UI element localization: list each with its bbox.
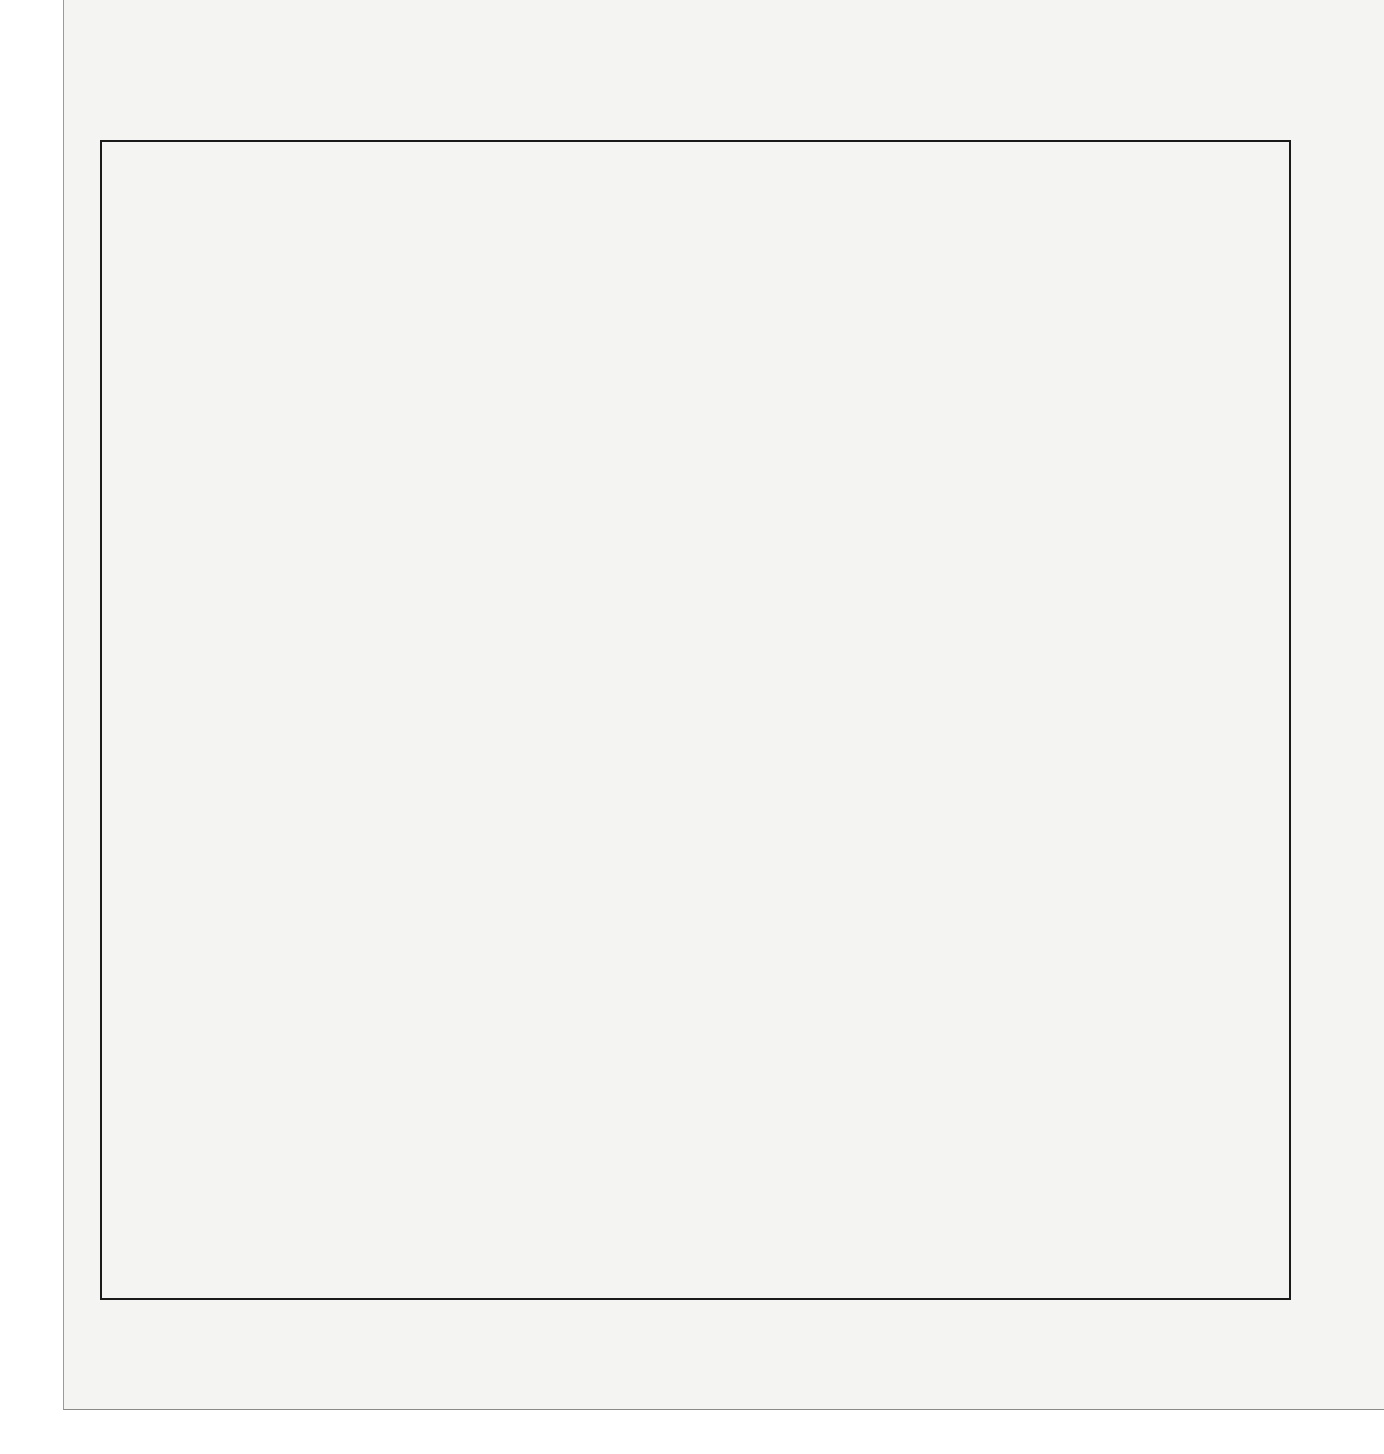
plot-frame [100, 140, 1291, 1300]
